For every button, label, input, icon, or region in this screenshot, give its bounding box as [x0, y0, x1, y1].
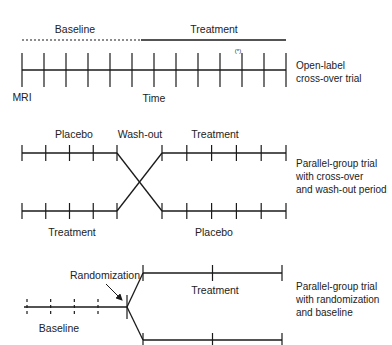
placebo-bottom-label: Placebo — [195, 226, 233, 238]
trial-design-diagram: Baseline Treatment (*) MRI Time Open-lab… — [0, 0, 392, 345]
randomization-label: Randomization — [70, 269, 140, 281]
mri-label: MRI — [12, 91, 31, 103]
treatment-label: Treatment — [191, 284, 239, 296]
description-line-3: and baseline — [296, 307, 353, 318]
control-branch-diagonal — [127, 307, 143, 340]
washout-label: Wash-out — [118, 128, 163, 140]
description-line-2: with cross-over — [295, 171, 364, 182]
description-line-1: Parallel-group trial — [296, 281, 377, 292]
description-line-2: cross-over trial — [296, 73, 362, 84]
baseline-label: Baseline — [39, 322, 79, 334]
placebo-top-label: Placebo — [55, 128, 93, 140]
description-line-3: and wash-out period — [296, 184, 387, 195]
description-line-2: with randomization — [295, 294, 379, 305]
crossover-ticks — [22, 145, 286, 219]
baseline-phase-label: Baseline — [55, 23, 95, 35]
treatment-top-label: Treatment — [191, 128, 239, 140]
open-label-panel: Baseline Treatment (*) MRI Time Open-lab… — [12, 23, 361, 104]
randomization-arrow — [106, 284, 122, 300]
description-line-1: Open-label — [296, 60, 345, 71]
scan-mark: (*) — [235, 48, 241, 54]
crossover-panel: Placebo Wash-out Treatment Treatment Pla… — [22, 128, 387, 238]
treatment-phase-label: Treatment — [190, 23, 238, 35]
time-label: Time — [143, 92, 166, 104]
randomized-panel: Randomization Baseline Treatment Paralle… — [24, 265, 379, 345]
treatment-bottom-label: Treatment — [48, 226, 96, 238]
description-line-1: Parallel-group trial — [296, 158, 377, 169]
